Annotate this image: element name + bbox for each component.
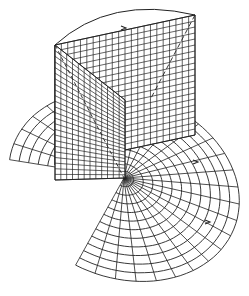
polar-spoke <box>124 178 231 236</box>
polar-spoke <box>124 178 176 277</box>
arrow-top-icon <box>121 26 126 30</box>
polar-spoke <box>124 178 209 261</box>
polar-spoke <box>76 178 124 265</box>
polar-spoke <box>124 178 193 271</box>
helicoid-diagram <box>0 0 249 296</box>
arrow-right-upper-icon <box>193 160 198 164</box>
